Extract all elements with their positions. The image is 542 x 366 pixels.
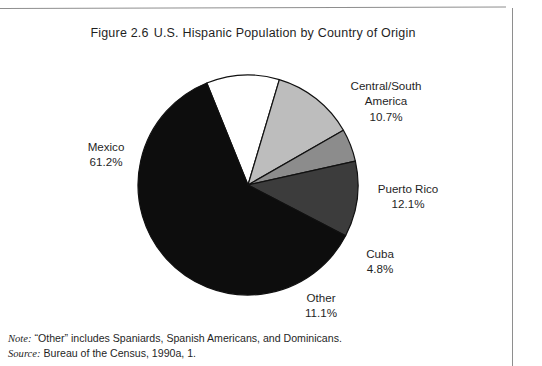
pie-label-mexico-name: Mexico <box>88 140 125 153</box>
footnote-note: Note: “Other” includes Spaniards, Spanis… <box>8 331 488 346</box>
pie-label-puerto-rico: Puerto Rico 12.1% <box>352 181 464 212</box>
pie-label-central-south-america-value: 10.7% <box>322 109 450 124</box>
pie-label-cuba: Cuba 4.8% <box>342 246 418 277</box>
footnote-note-key: Note: <box>8 333 32 344</box>
figure-footnotes: Note: “Other” includes Spaniards, Spanis… <box>8 331 488 362</box>
footnote-note-text: “Other” includes Spaniards, Spanish Amer… <box>35 332 342 344</box>
footnote-source-key: Source: <box>8 348 41 359</box>
pie-label-other-name: Other <box>307 291 336 304</box>
figure-page: Figure 2.6U.S. Hispanic Population by Co… <box>0 0 542 366</box>
pie-chart: Mexico 61.2% Central/South America 10.7%… <box>0 0 542 366</box>
pie-label-mexico-value: 61.2% <box>54 154 158 169</box>
pie-label-central-south-america: Central/South America 10.7% <box>322 78 450 124</box>
pie-label-puerto-rico-name: Puerto Rico <box>378 182 439 195</box>
footnote-source: Source: Bureau of the Census, 1990a, 1. <box>8 346 488 361</box>
pie-label-puerto-rico-value: 12.1% <box>352 196 464 211</box>
pie-label-cuba-name: Cuba <box>366 247 394 260</box>
pie-label-cuba-value: 4.8% <box>342 261 418 276</box>
pie-label-other-value: 11.1% <box>284 305 358 320</box>
pie-label-mexico: Mexico 61.2% <box>54 139 158 170</box>
pie-label-central-south-america-name-line1: Central/South <box>351 79 422 92</box>
footnote-source-text: Bureau of the Census, 1990a, 1. <box>44 347 197 359</box>
pie-label-central-south-america-name-line2: America <box>322 93 450 108</box>
pie-label-other: Other 11.1% <box>284 290 358 321</box>
